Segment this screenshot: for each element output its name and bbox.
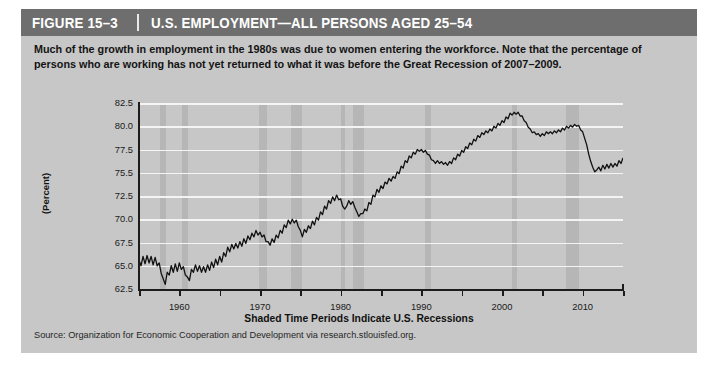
x-tickmark [381, 291, 383, 296]
x-tickmark [502, 291, 504, 296]
x-tickmark [542, 291, 544, 296]
chart-panel: (Percent) 82.580.077.575.572.570.067.565… [21, 85, 697, 325]
x-tick-label: 1970 [235, 301, 285, 312]
series-polyline [139, 112, 623, 284]
x-tickmark [179, 291, 181, 296]
x-axis-right-end-cap [622, 284, 624, 291]
x-tickmark [623, 291, 625, 296]
x-tickmark [260, 291, 262, 296]
figure-card: FIGURE 15–3 U.S. EMPLOYMENT—ALL PERSONS … [21, 9, 697, 353]
y-tick-label: 70.0 [93, 213, 133, 224]
x-tickmark [341, 291, 343, 296]
y-tick-label: 65.0 [93, 260, 133, 271]
y-tick-label: 62.5 [93, 283, 133, 294]
x-tick-label: 1960 [154, 301, 204, 312]
y-tick-label: 77.5 [93, 144, 133, 155]
y-tick-label: 82.5 [93, 97, 133, 108]
y-tick-label: 72.5 [93, 190, 133, 201]
y-tick-label: 80.0 [93, 120, 133, 131]
x-tick-label: 2010 [558, 301, 608, 312]
figure-source: Source: Organization for Economic Cooper… [34, 330, 416, 340]
figure-header-bar: FIGURE 15–3 U.S. EMPLOYMENT—ALL PERSONS … [21, 9, 697, 36]
employment-rate-line [139, 103, 623, 289]
y-axis-line [138, 102, 140, 291]
x-axis-title: Shaded Time Periods Indicate U.S. Recess… [21, 313, 697, 324]
x-tick-label: 1980 [316, 301, 366, 312]
y-axis-title: (Percent) [40, 154, 51, 234]
figure-number: FIGURE 15–3 [21, 15, 128, 31]
figure-root: FIGURE 15–3 U.S. EMPLOYMENT—ALL PERSONS … [0, 0, 718, 371]
y-tick-label: 67.5 [93, 237, 133, 248]
x-tickmark [583, 291, 585, 296]
x-tick-label: 1990 [396, 301, 446, 312]
x-axis-line [138, 289, 624, 291]
x-tickmark [421, 291, 423, 296]
x-tickmark [220, 291, 222, 296]
figure-caption: Much of the growth in employment in the … [34, 42, 684, 71]
x-tickmark [139, 291, 141, 296]
x-tickmark [462, 291, 464, 296]
x-tickmark [300, 291, 302, 296]
x-tick-label: 2000 [477, 301, 527, 312]
plot-area [139, 103, 623, 289]
y-tick-label: 75.5 [93, 167, 133, 178]
figure-title: U.S. EMPLOYMENT—ALL PERSONS AGED 25–54 [139, 15, 472, 31]
